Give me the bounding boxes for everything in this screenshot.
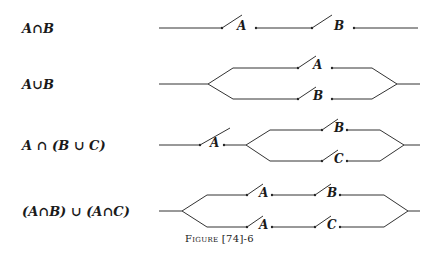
switch-label-b: B	[334, 19, 344, 33]
circuit-distributed	[159, 184, 420, 228]
switch-label-c: C	[327, 218, 337, 232]
switch-label-b: B	[313, 89, 323, 103]
switch-label-a: A	[210, 136, 219, 150]
switch-label-a: A	[259, 186, 268, 200]
switch-label-a: A	[259, 218, 268, 232]
switch-label-a: A	[313, 58, 322, 72]
circuit-series-a-b	[159, 15, 418, 29]
circuit-parallel-a-b	[159, 56, 420, 100]
switch-label-b: B	[327, 186, 337, 200]
switch-label-c: C	[334, 152, 344, 166]
switch-blade-b	[312, 15, 332, 28]
switching-circuits	[0, 0, 440, 258]
figure-caption: Figure [74]-6	[185, 233, 254, 244]
switch-label-a: A	[237, 19, 246, 33]
switch-label-b: B	[334, 121, 344, 135]
circuit-a-and-b-or-c	[159, 119, 420, 162]
